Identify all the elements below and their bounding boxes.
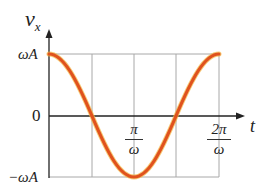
y-tick-bottom: −ωA	[8, 170, 38, 185]
y-axis-label-subscript: x	[35, 19, 41, 34]
x-tick2-denominator: ω	[214, 142, 225, 157]
x-axis-arrow-icon	[236, 113, 245, 120]
x-tick1-denominator: ω	[129, 142, 140, 157]
y-axis-arrow-icon	[46, 29, 53, 38]
x-tick2-numerator: 2π	[211, 122, 226, 137]
y-tick-top: ωA	[18, 47, 38, 62]
y-tick-zero: 0	[32, 107, 41, 124]
fraction-bar	[125, 139, 143, 140]
y-axis-label-main: v	[25, 6, 35, 31]
x-axis-label: t	[250, 117, 255, 135]
fraction-bar	[207, 139, 231, 140]
x-tick-2pi-over-omega: 2π ω	[207, 122, 231, 157]
y-axis-label: vx	[25, 8, 41, 33]
x-tick1-numerator: π	[130, 122, 138, 137]
x-tick-pi-over-omega: π ω	[125, 122, 143, 157]
